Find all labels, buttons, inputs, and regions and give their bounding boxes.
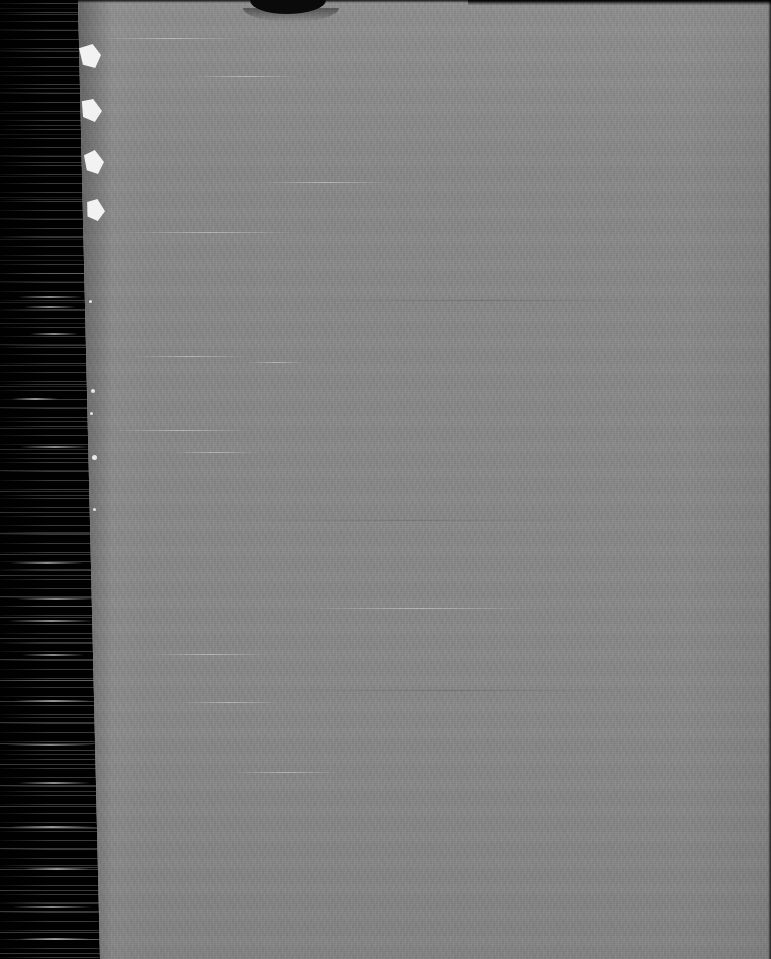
- paper-edge-speck: [93, 508, 96, 511]
- paper-dark-streak: [260, 690, 640, 691]
- paper-dark-streak: [300, 300, 660, 301]
- gutter-streak: [6, 744, 94, 746]
- paper-scratch: [230, 772, 340, 773]
- paper-scratch: [170, 452, 260, 453]
- gutter-streak: [16, 598, 96, 600]
- scan-banding-texture: [78, 0, 771, 959]
- paper-surface: [78, 0, 771, 959]
- paper-scratch: [112, 430, 252, 431]
- paper-scratch: [180, 702, 280, 703]
- gutter-streak: [18, 782, 90, 784]
- gutter-streak: [24, 306, 76, 308]
- paper-scratch: [246, 362, 306, 363]
- paper-scratch: [96, 38, 246, 39]
- gutter-streak: [22, 654, 84, 656]
- gutter-streak: [10, 562, 84, 564]
- paper-dark-streak: [200, 520, 620, 521]
- paper-scratch: [260, 182, 390, 183]
- gutter-streak: [18, 296, 82, 298]
- paper-scratch: [130, 356, 250, 357]
- paper-edge-speck: [91, 389, 95, 393]
- gutter-streak: [14, 700, 92, 702]
- page-top-right-edge-shadow: [468, 0, 771, 5]
- paper-edge-speck: [90, 412, 93, 415]
- gutter-streak: [24, 868, 90, 870]
- paper-scratch: [190, 76, 300, 77]
- gutter-streak: [8, 620, 94, 622]
- paper-edge-speck: [92, 455, 97, 460]
- paper-scratch: [120, 232, 300, 233]
- paper-scratch: [300, 608, 540, 609]
- gutter-streak: [20, 446, 90, 448]
- gutter-streak: [12, 398, 58, 400]
- paper-edge-speck: [89, 300, 92, 303]
- gutter-streak: [12, 906, 92, 908]
- scanned-page-image: Blank scanned page: [0, 0, 771, 959]
- gutter-streak: [20, 938, 90, 940]
- gutter-streak: [30, 333, 78, 335]
- gutter-streak: [10, 826, 94, 828]
- paper-scratch: [150, 654, 270, 655]
